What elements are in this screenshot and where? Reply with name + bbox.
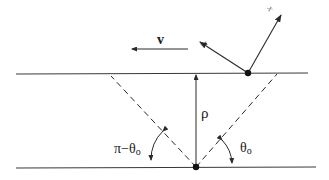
x-axis-label: x: [265, 4, 276, 13]
velocity-label: v: [157, 32, 164, 47]
rho-label: ρ: [201, 105, 209, 121]
bottom-point: [193, 164, 199, 170]
diagram-canvas: v ρ π−θo θo x y: [0, 0, 329, 180]
angle-arc-left: [151, 131, 163, 160]
top-boundary-line: [16, 73, 308, 74]
angle-left-subscript: o: [136, 146, 141, 157]
x-axis-arrow: [248, 15, 281, 73]
angle-right-label: θo: [240, 140, 252, 156]
top-point: [245, 70, 251, 76]
angle-left-label: π−θo: [114, 141, 141, 157]
angle-left-main: π−θ: [114, 141, 136, 156]
bottom-boundary-line: [16, 167, 316, 168]
y-axis-arrow: [200, 42, 248, 73]
angle-right-subscript: o: [247, 145, 252, 156]
angle-arc-right: [222, 140, 232, 163]
y-axis-label: y: [200, 39, 211, 48]
